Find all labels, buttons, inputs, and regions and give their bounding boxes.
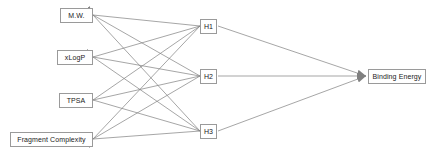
edge-h1-to-binding [218,26,366,76]
node-h2[interactable]: H2 [200,69,217,84]
edge-tpsa-to-h3 [93,100,200,131]
node-xlogp[interactable]: xLogP [57,50,93,65]
edge-tpsa-to-h2 [93,76,200,100]
node-h3[interactable]: H3 [200,124,217,139]
edges-hidden-to-output [218,26,366,131]
edge-mw-to-h3 [93,15,200,131]
node-tpsa-label: TPSA [65,97,88,104]
edge-xlogp-to-h2 [93,57,200,76]
node-fragcplx-label: Fragment Complexity [15,136,87,143]
edge-fragcplx-to-h2 [93,76,200,139]
node-binding[interactable]: Binding Energy [368,69,426,84]
node-h1[interactable]: H1 [200,19,217,34]
edge-mw-to-h1 [93,15,200,26]
edge-fragcplx-to-h3 [93,131,200,139]
edge-xlogp-to-h1 [93,26,200,57]
edge-xlogp-to-h3 [93,57,200,131]
edge-mw-to-h2 [93,15,200,76]
node-tpsa[interactable]: TPSA [59,93,93,108]
node-fragcplx[interactable]: Fragment Complexity [10,132,93,147]
edge-tpsa-to-h1 [93,26,200,100]
node-h1-label: H1 [202,23,215,30]
node-h2-label: H2 [202,73,215,80]
edge-fragcplx-to-h1 [93,26,200,139]
node-binding-label: Binding Energy [371,73,424,80]
node-mw[interactable]: M.W. [60,8,93,23]
neural-network-diagram: M.W.xLogPTPSAFragment Complexity H1H2H3 … [0,0,431,154]
node-mw-label: M.W. [66,12,86,19]
edges-input-to-hidden [93,15,200,139]
edge-h3-to-binding [218,76,366,131]
node-xlogp-label: xLogP [63,54,87,61]
node-h3-label: H3 [202,128,215,135]
